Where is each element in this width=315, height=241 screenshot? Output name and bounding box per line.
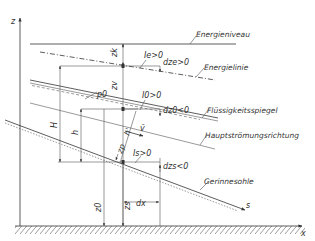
Ie-label: Ie>0 [144, 51, 163, 60]
water-surface-label: Flüssigkeitsspiegel [207, 106, 278, 115]
dze-label: dze>0 [163, 58, 189, 67]
zv-label: zv [110, 81, 119, 91]
water-surface [30, 80, 218, 121]
dx-label: dx [136, 199, 146, 208]
main-flow-label: Hauptströmungsrichtung [205, 131, 299, 140]
ground-baseline [15, 226, 305, 234]
energy-line-label: Energielinie [204, 63, 249, 72]
energy-level-label: Energieniveau [196, 30, 250, 39]
z0-label: z0 [94, 203, 103, 213]
p0-label: p0 [96, 90, 107, 99]
dz0-label: dz0<0 [163, 106, 189, 115]
I0-label: I0>0 [142, 91, 161, 100]
s-axis-label: s [246, 201, 250, 210]
h-label: h [71, 130, 80, 135]
x-axis-label: x [300, 229, 306, 238]
z-axis-label: z [10, 17, 16, 26]
H-label: H [50, 122, 59, 128]
dzs-label: dzs<0 [163, 162, 188, 171]
open-channel-flow-diagram: x z Energieniveau Energielinie Flüssigke… [0, 0, 315, 241]
v-bar-label: v̄ [140, 124, 145, 133]
zs-label: zs [123, 202, 132, 211]
channel-bed-label: Gerinnesohle [204, 177, 254, 186]
zk-label: zk [110, 48, 119, 58]
zp-label: zp [115, 143, 127, 156]
Is-label: Is>0 [133, 149, 151, 158]
